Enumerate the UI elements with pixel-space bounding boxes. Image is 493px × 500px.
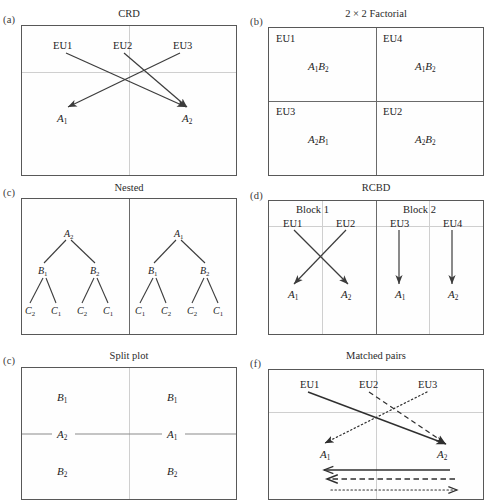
panel-title-crd: CRD bbox=[21, 8, 237, 19]
block-label-1: Block 1 bbox=[296, 204, 329, 215]
eu-label-eu1: EU1 bbox=[283, 218, 302, 229]
treatment-subscript-b: 2 bbox=[432, 139, 436, 147]
eu-label-eu2: EU2 bbox=[383, 106, 402, 117]
node-subscript: 1 bbox=[154, 270, 157, 277]
treatment-letter: A bbox=[167, 428, 174, 440]
treatment-subscript: 1 bbox=[295, 294, 299, 302]
panel-box-factorial bbox=[268, 27, 484, 176]
node-subscript: 1 bbox=[180, 233, 183, 240]
node-letter: C bbox=[161, 305, 168, 316]
node-subscript: 2 bbox=[96, 270, 99, 277]
treatment-subscript: 2 bbox=[64, 434, 68, 442]
treatment-label-a2: A2 bbox=[341, 288, 351, 300]
treatment-subscript: 1 bbox=[327, 454, 331, 462]
node-subscript: 1 bbox=[110, 310, 113, 317]
nested-left-branch-1: B1 bbox=[38, 265, 48, 276]
treatment-label-a4: A2 bbox=[448, 288, 458, 300]
treatment-subscript-a: 1 bbox=[422, 66, 426, 74]
treatment-letter: A bbox=[341, 288, 348, 300]
panel-tag-c: (c) bbox=[3, 187, 15, 198]
node-subscript: 2 bbox=[194, 310, 197, 317]
panel-box-split-plot bbox=[21, 367, 237, 500]
treatment-subscript: 2 bbox=[64, 471, 68, 479]
treatment-letter: A bbox=[57, 428, 64, 440]
treatment-letter-a: A bbox=[308, 60, 315, 72]
treatment-letter: A bbox=[182, 112, 189, 124]
nested-right-branch-1: B1 bbox=[148, 265, 158, 276]
eu-label-eu2: EU2 bbox=[336, 218, 355, 229]
node-subscript: 1 bbox=[142, 310, 145, 317]
nested-right-leaf-2: C2 bbox=[161, 305, 171, 316]
node-letter: C bbox=[51, 305, 58, 316]
treatment-letter: B bbox=[167, 465, 174, 477]
split-left-bottom: B2 bbox=[57, 465, 67, 477]
nested-left-root: A2 bbox=[64, 228, 74, 239]
split-left-mid: A2 bbox=[57, 428, 67, 440]
eu-label-eu3: EU3 bbox=[390, 218, 409, 229]
node-subscript: 2 bbox=[84, 310, 87, 317]
panel-title-matched-pairs: Matched pairs bbox=[268, 350, 484, 361]
node-letter: C bbox=[187, 305, 194, 316]
panel-tag-b: (b) bbox=[250, 16, 263, 27]
node-subscript: 1 bbox=[220, 310, 223, 317]
nested-left-leaf-2: C1 bbox=[51, 305, 61, 316]
treatment-subscript: 1 bbox=[64, 118, 68, 126]
treatment-subscript: 2 bbox=[174, 471, 178, 479]
treatment-subscript-a: 2 bbox=[315, 139, 319, 147]
rcbd-block-divider bbox=[376, 201, 377, 334]
split-right-bottom: B2 bbox=[167, 465, 177, 477]
cell-treatment-1: A1B2 bbox=[308, 60, 329, 72]
treatment-subscript-b: 1 bbox=[325, 139, 329, 147]
block-label-2: Block 2 bbox=[403, 204, 436, 215]
treatment-label-a2: A2 bbox=[182, 112, 192, 124]
treatment-letter-a: A bbox=[415, 133, 422, 145]
treatment-subscript: 1 bbox=[64, 397, 68, 405]
treatment-letter-a: A bbox=[415, 60, 422, 72]
eu-label-eu3: EU3 bbox=[418, 379, 437, 390]
nested-left-leaf-4: C1 bbox=[103, 305, 113, 316]
treatment-letter: A bbox=[448, 288, 455, 300]
node-letter: C bbox=[77, 305, 84, 316]
treatment-letter: A bbox=[57, 112, 64, 124]
panel-tag-d: (d) bbox=[250, 190, 263, 201]
treatment-subscript: 1 bbox=[402, 294, 406, 302]
treatment-label-a1: A1 bbox=[57, 112, 67, 124]
treatment-letter: A bbox=[320, 448, 327, 460]
node-letter: C bbox=[135, 305, 142, 316]
split-left-top: B1 bbox=[57, 391, 67, 403]
nested-right-leaf-1: C1 bbox=[135, 305, 145, 316]
node-letter: C bbox=[25, 305, 32, 316]
gridline-vertical-2 bbox=[429, 201, 430, 334]
nested-right-leaf-4: C1 bbox=[213, 305, 223, 316]
cell-treatment-4: A2B2 bbox=[415, 133, 436, 145]
panel-title-rcbd: RCBD bbox=[268, 182, 484, 193]
split-plot-vertical-divider bbox=[129, 368, 130, 499]
eu-label-eu1: EU1 bbox=[276, 33, 295, 44]
nested-left-branch-2: B2 bbox=[90, 265, 100, 276]
treatment-label-a3: A1 bbox=[395, 288, 405, 300]
split-right-top: B1 bbox=[167, 391, 177, 403]
treatment-label-a1: A1 bbox=[288, 288, 298, 300]
split-right-mid: A1 bbox=[167, 428, 177, 440]
treatment-label-a2: A2 bbox=[437, 448, 447, 460]
treatment-subscript-a: 1 bbox=[315, 66, 319, 74]
treatment-subscript: 1 bbox=[174, 397, 178, 405]
experimental-design-figure: (a) CRD EU1 EU2 EU3 A1 A2 bbox=[0, 0, 493, 500]
node-letter: C bbox=[103, 305, 110, 316]
panel-tag-f: (f) bbox=[250, 358, 261, 369]
node-subscript: 1 bbox=[58, 310, 61, 317]
treatment-subscript: 2 bbox=[455, 294, 459, 302]
treatment-subscript-b: 2 bbox=[325, 66, 329, 74]
eu-label-eu1: EU1 bbox=[53, 40, 72, 51]
eu-label-eu3: EU3 bbox=[276, 106, 295, 117]
treatment-label-a1: A1 bbox=[320, 448, 330, 460]
nested-vertical-divider bbox=[129, 199, 130, 334]
node-subscript: 1 bbox=[44, 270, 47, 277]
nested-left-leaf-1: C2 bbox=[25, 305, 35, 316]
panel-title-split-plot: Split plot bbox=[21, 350, 237, 361]
treatment-letter: A bbox=[437, 448, 444, 460]
node-subscript: 2 bbox=[168, 310, 171, 317]
factorial-vertical-divider bbox=[376, 28, 377, 175]
eu-label-eu4: EU4 bbox=[383, 33, 402, 44]
treatment-letter-a: A bbox=[308, 133, 315, 145]
